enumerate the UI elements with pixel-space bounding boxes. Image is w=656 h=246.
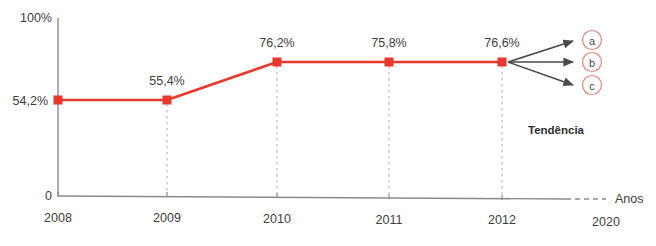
x-axis-name: Anos [615, 192, 644, 206]
branch-letter-c: c [589, 80, 595, 92]
data-point-marker-2010 [273, 58, 282, 67]
x-axis-line [58, 196, 566, 199]
trend-line-chart: a b c 100% 0 54,2% 55,4% 76,2% 75,8% 76,… [0, 0, 656, 246]
chart-canvas: a b c 100% 0 54,2% 55,4% 76,2% 75,8% 76,… [0, 0, 656, 246]
value-label-2012: 76,6% [484, 36, 519, 50]
y-axis-top-label: 100% [20, 11, 52, 25]
value-label-2010: 76,2% [259, 36, 294, 50]
value-label-2009: 55,4% [149, 74, 184, 88]
trend-arrow-c [508, 62, 573, 85]
data-point-marker-2009 [163, 96, 172, 105]
x-label-2010: 2010 [263, 212, 291, 226]
x-label-2020: 2020 [592, 215, 620, 229]
value-label-2008: 54,2% [13, 94, 48, 108]
data-point-marker-2008 [54, 96, 63, 105]
data-point-marker-2012 [498, 58, 507, 67]
branch-letter-a: a [589, 35, 596, 47]
data-point-marker-2011 [385, 58, 394, 67]
x-label-2009: 2009 [153, 211, 181, 225]
x-label-2008: 2008 [44, 211, 72, 225]
x-label-2012: 2012 [488, 213, 516, 227]
value-label-2011: 75,8% [371, 36, 406, 50]
y-axis-zero-label: 0 [45, 189, 52, 203]
series-line [58, 62, 502, 100]
x-label-2011: 2011 [376, 213, 403, 227]
branch-letter-b: b [589, 57, 595, 69]
trend-annotation-label: Tendência [528, 124, 585, 136]
